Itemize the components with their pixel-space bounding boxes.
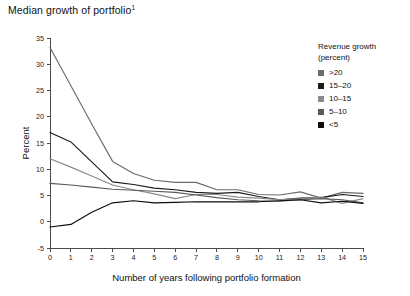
legend-item[interactable]: 10–15 xyxy=(318,92,408,105)
x-tick-label: 1 xyxy=(69,253,73,262)
legend-swatch-icon xyxy=(318,96,324,102)
x-axis-title: Number of years following portfolio form… xyxy=(50,272,363,283)
y-tick-label: 5 xyxy=(40,191,44,200)
y-tick-label: 15 xyxy=(36,139,44,148)
legend-swatch-icon xyxy=(318,70,324,76)
x-tick-label: 6 xyxy=(173,253,177,262)
legend-swatch-icon xyxy=(318,83,324,89)
legend-item[interactable]: >20 xyxy=(318,66,408,79)
legend-item-label: >20 xyxy=(329,68,343,77)
legend-item-label: <5 xyxy=(329,120,338,129)
legend-item-label: 15–20 xyxy=(329,81,351,90)
y-tick-label: 0 xyxy=(40,217,44,226)
legend-item-label: 5–10 xyxy=(329,107,347,116)
x-tick-label: 11 xyxy=(276,253,283,262)
series-line-5 xyxy=(50,200,363,227)
x-tick-label: 2 xyxy=(90,253,94,262)
legend: Revenue growth (percent) >2015–2010–155–… xyxy=(318,42,408,131)
x-tick-label: 5 xyxy=(152,253,156,262)
x-tick-label: 15 xyxy=(359,253,367,262)
y-tick-label: 20 xyxy=(36,112,44,121)
legend-title: Revenue growth (percent) xyxy=(318,42,408,63)
x-tick-label: 14 xyxy=(338,253,346,262)
x-tick-label: 12 xyxy=(296,253,304,262)
chart-figure: Median growth of portfolio1 353025201510… xyxy=(0,0,410,296)
legend-title-line-2: (percent) xyxy=(318,53,408,64)
legend-swatch-icon xyxy=(318,109,324,115)
y-tick-label: 25 xyxy=(36,86,44,95)
y-axis-title: Percent xyxy=(20,127,31,160)
y-tick-label: 35 xyxy=(36,34,44,43)
x-tick-label: 4 xyxy=(131,253,135,262)
x-tick-label: 10 xyxy=(255,253,263,262)
series-line-20 xyxy=(50,47,363,198)
legend-title-line-1: Revenue growth xyxy=(318,42,408,53)
x-tick-label: 3 xyxy=(111,253,115,262)
legend-item[interactable]: 5–10 xyxy=(318,105,408,118)
legend-swatch-icon xyxy=(318,122,324,128)
y-tick-label: 30 xyxy=(36,60,44,69)
x-tick-label: 0 xyxy=(48,253,52,262)
x-tick-label: 8 xyxy=(215,253,219,262)
y-tick-label: -5 xyxy=(38,244,44,253)
legend-item[interactable]: <5 xyxy=(318,118,408,131)
legend-item-label: 10–15 xyxy=(329,94,351,103)
series-line-15-20 xyxy=(50,133,363,200)
legend-item[interactable]: 15–20 xyxy=(318,79,408,92)
y-tick-label: 10 xyxy=(36,165,44,174)
x-tick-label: 13 xyxy=(317,253,325,262)
x-tick-label: 9 xyxy=(236,253,240,262)
x-tick-label: 7 xyxy=(194,253,198,262)
